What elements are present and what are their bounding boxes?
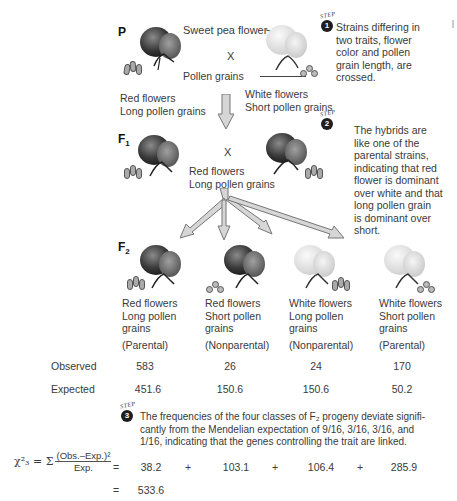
step-word: STEP <box>120 400 137 409</box>
plus-sign: + <box>272 461 278 474</box>
f2-class-line: grains <box>379 322 442 335</box>
step-1-line: color and pollen <box>336 46 420 59</box>
step-2-line: parental strains, <box>354 149 443 162</box>
step-2-line: over white and that <box>354 187 443 200</box>
branching-arrows-icon <box>180 188 360 248</box>
step-2-line: indicating that red <box>354 162 443 175</box>
parent-right-line1: White flowers <box>245 88 333 101</box>
long-pollen-grains-icon <box>332 276 352 292</box>
observed-value: 583 <box>115 360 175 372</box>
down-arrow-icon <box>218 94 234 130</box>
step-number: 2 <box>321 118 333 130</box>
observed-label: Observed <box>51 360 97 372</box>
step-number: 3 <box>121 410 133 422</box>
f2-class-4-label: White flowers Short pollen grains (Paren… <box>379 297 442 351</box>
step-2-line: short. <box>354 224 443 237</box>
f2-class-type: (Parental) <box>122 339 177 352</box>
cross-symbol-f1: X <box>224 146 231 159</box>
parent-left-line2: Long pollen grains <box>120 105 206 118</box>
f2-class-type: (Parental) <box>379 339 442 352</box>
observed-value: 170 <box>372 360 432 372</box>
chi-square-fraction: (Obs.–Exp.)² Exp. <box>55 450 111 473</box>
short-pollen-grains-icon <box>206 280 226 294</box>
step-1-line: crossed. <box>336 71 420 84</box>
equals-sign: = <box>113 461 119 474</box>
f2-class-line: Long pollen <box>289 310 353 323</box>
chi-term: 38.2 <box>121 461 181 473</box>
long-pollen-grains-icon <box>124 164 144 180</box>
generation-label-f2: F2 <box>118 240 130 256</box>
chi-square-lhs: χ²₃ = Σ <box>14 455 53 468</box>
step-3-line: The frequencies of the four classes of F… <box>140 411 425 424</box>
generation-label-p: P <box>118 25 126 39</box>
f2-class-line: grains <box>122 322 177 335</box>
parent-left-line1: Red flowers <box>120 92 206 105</box>
generation-label-f1: F1 <box>118 132 130 148</box>
step-2-line: flower is dominant <box>354 174 443 187</box>
fraction-numerator: (Obs.–Exp.)² <box>55 450 111 462</box>
step-2-line: long pollen grain <box>354 199 443 212</box>
parent-right-label: White flowers Short pollen grains <box>245 88 333 113</box>
step-1-line: two traits, flower <box>336 34 420 47</box>
step-1-line: grain length, are <box>336 59 420 72</box>
step-3-text: The frequencies of the four classes of F… <box>140 411 425 449</box>
plus-sign: + <box>185 461 191 474</box>
plus-sign: + <box>357 461 363 474</box>
step-1-line: Strains differing in <box>336 21 420 34</box>
long-pollen-grains-icon <box>127 275 147 291</box>
step-1-text: Strains differing in two traits, flower … <box>336 21 420 84</box>
pollen-grains-callout: Pollen grains <box>183 70 244 83</box>
f2-class-type: (Nonparental) <box>289 339 353 352</box>
long-pollen-grains-icon <box>124 60 144 76</box>
observed-value: 26 <box>200 360 260 372</box>
f2-class-1-label: Red flowers Long pollen grains (Parental… <box>122 297 177 351</box>
expected-value: 50.2 <box>372 383 432 395</box>
chi-total: 533.6 <box>121 484 181 496</box>
f2-class-line: Short pollen <box>205 310 269 323</box>
f2-class-line: Short pollen <box>379 310 442 323</box>
chi-square-formula: χ²₃ = Σ (Obs.–Exp.)² Exp. <box>14 450 111 473</box>
expected-label: Expected <box>51 383 95 395</box>
f2-class-line: grains <box>205 322 269 335</box>
f2-class-line: Red flowers <box>122 297 177 310</box>
f2-class-3-label: White flowers Long pollen grains (Nonpar… <box>289 297 353 351</box>
f2-class-line: grains <box>289 322 353 335</box>
observed-value: 24 <box>286 360 346 372</box>
equals-sign: = <box>113 484 119 497</box>
f2-class-line: White flowers <box>289 297 353 310</box>
step-3-line: 1/16, indicating that the genes controll… <box>140 436 425 449</box>
gen-subscript: 2 <box>125 247 129 256</box>
sweet-pea-flower-callout: Sweet pea flower <box>183 24 267 37</box>
expected-value: 451.6 <box>118 383 178 395</box>
step-2-line: like one of the <box>354 137 443 150</box>
parent-left-label: Red flowers Long pollen grains <box>120 92 206 117</box>
step-2-line: The hybrids are <box>354 124 443 137</box>
step-2-text: The hybrids are like one of the parental… <box>354 124 443 237</box>
short-pollen-grains-icon <box>417 280 437 294</box>
step-number: 1 <box>321 20 333 32</box>
red-flower-icon <box>220 240 270 290</box>
step-2-line: is dominant over <box>354 212 443 225</box>
chi-term: 106.4 <box>291 461 351 473</box>
f2-class-line: Long pollen <box>122 310 177 323</box>
chi-term: 285.9 <box>374 461 434 473</box>
gen-subscript: 1 <box>125 139 129 148</box>
step-3-line: cantly from the Mendelian expectation of… <box>140 424 425 437</box>
short-pollen-grains-icon <box>300 64 320 78</box>
f2-class-line: White flowers <box>379 297 442 310</box>
expected-value: 150.6 <box>286 383 346 395</box>
cropped-edge-mark <box>452 20 454 28</box>
cross-symbol-p: X <box>227 50 234 63</box>
chi-term: 103.1 <box>206 461 266 473</box>
expected-value: 150.6 <box>200 383 260 395</box>
long-pollen-grains-icon <box>305 164 325 180</box>
fraction-denominator: Exp. <box>74 462 93 473</box>
step-word: STEP <box>320 10 337 19</box>
f2-class-type: (Nonparental) <box>205 339 269 352</box>
f2-class-2-label: Red flowers Short pollen grains (Nonpare… <box>205 297 269 351</box>
f2-class-line: Red flowers <box>205 297 269 310</box>
